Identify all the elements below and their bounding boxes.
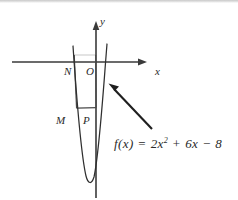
equation-equals: = <box>134 136 151 151</box>
y-axis <box>93 21 100 198</box>
math-figure: y x N O M P f(x) = 2x2 + 6x − 8 <box>0 0 238 200</box>
y-axis-label: y <box>100 16 105 27</box>
figure-canvas <box>0 0 238 200</box>
equation-term3: 8 <box>215 136 222 151</box>
equation-term2: 6x <box>185 136 198 151</box>
equation-fx: f(x) <box>114 136 134 151</box>
point-label-p: P <box>83 115 90 126</box>
point-label-m: M <box>56 115 65 126</box>
function-equation-label: f(x) = 2x2 + 6x − 8 <box>114 137 222 150</box>
equation-op2: − <box>198 136 215 151</box>
x-axis <box>12 59 147 66</box>
equation-op1: + <box>168 136 185 151</box>
equation-term1-coeff: 2 <box>151 136 158 151</box>
equation-pointer-arrow <box>109 84 153 130</box>
point-label-o: O <box>86 66 94 77</box>
x-axis-label: x <box>155 66 160 77</box>
point-label-n: N <box>64 66 71 77</box>
